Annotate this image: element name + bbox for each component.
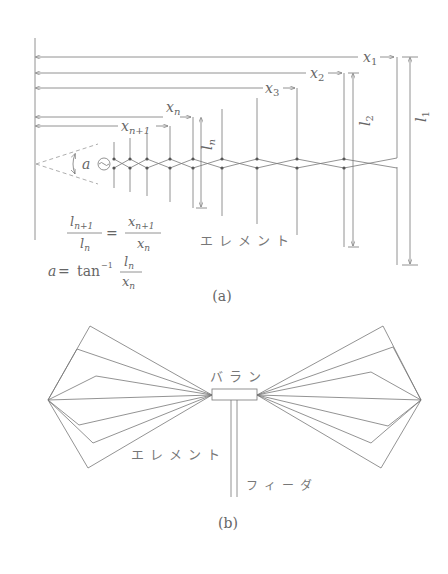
x-dimension-arrows <box>36 57 394 126</box>
caption-a: (a) <box>212 288 231 304</box>
signal-source-icon <box>98 158 110 170</box>
angle-arc <box>73 154 75 174</box>
antenna-diagram: x1 x2 x3 xn xn+1 <box>0 0 448 574</box>
svg-text:=: = <box>58 263 70 279</box>
svg-text:ln: ln <box>124 254 134 271</box>
balun-label: バラン <box>210 369 267 384</box>
svg-text:tan: tan <box>77 263 100 279</box>
svg-text:−1: −1 <box>101 261 113 270</box>
formula-angle: a = tan −1 ln xn <box>48 254 142 291</box>
element-label-b: エレメント <box>131 447 226 462</box>
balun-box <box>212 389 257 400</box>
svg-text:ln+1: ln+1 <box>70 214 93 231</box>
right-element-wing <box>257 326 421 468</box>
feed-line-crisscross <box>112 157 397 169</box>
label-ln: ln <box>199 139 217 150</box>
label-x1: x1 <box>363 49 377 67</box>
label-l1: l1 <box>413 111 431 122</box>
svg-text:xn+1: xn+1 <box>128 214 154 231</box>
svg-text:ln: ln <box>80 236 90 253</box>
svg-text:xn: xn <box>137 236 150 253</box>
svg-text:xn: xn <box>122 274 135 291</box>
formula-ratio: ln+1 ln = xn+1 xn <box>67 214 161 253</box>
element-label-a: エレメント <box>200 233 295 248</box>
angle-label: a <box>82 156 90 172</box>
diagram-a-log-periodic: x1 x2 x3 xn xn+1 <box>35 38 431 304</box>
diagram-b-bowtie: バラン エレメント フィーダ (b) <box>48 326 421 531</box>
caption-b: (b) <box>218 515 238 531</box>
label-xn-plus-1: xn+1 <box>121 118 150 136</box>
feeder-label: フィーダ <box>246 478 318 493</box>
svg-text:=: = <box>106 225 118 241</box>
label-x3: x3 <box>265 80 279 98</box>
label-l2: l2 <box>357 115 375 126</box>
label-x2: x2 <box>310 65 324 83</box>
label-xn: xn <box>166 99 180 117</box>
svg-text:a: a <box>48 263 56 279</box>
